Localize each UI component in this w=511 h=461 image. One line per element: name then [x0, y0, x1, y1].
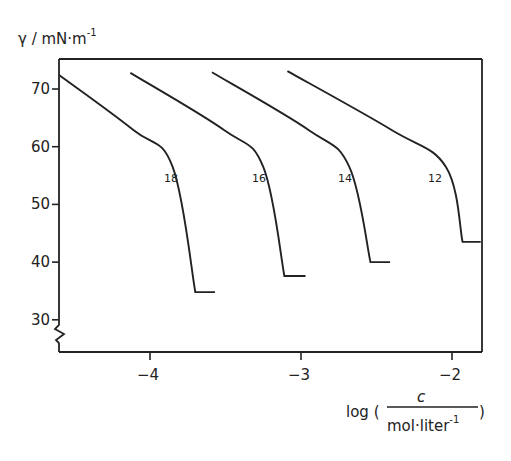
curve-label-12: 12	[428, 172, 442, 185]
plot-frame	[55, 59, 482, 352]
y-tick-label: 30	[31, 311, 50, 329]
curve-14	[212, 72, 390, 262]
curve-12	[287, 71, 480, 242]
curve-16	[130, 73, 305, 276]
y-axis-with-break	[55, 59, 64, 352]
y-tick-label: 40	[31, 253, 50, 271]
y-axis-title: γ / mN·m-1	[18, 27, 97, 48]
surface-tension-chart: 3040506070 −4−3−2 18161412 γ / mN·m-1 lo…	[0, 0, 511, 461]
y-tick-label: 70	[31, 80, 50, 98]
x-tick-label: −3	[288, 366, 310, 384]
x-axis-title: log ( c mol·liter-1 )	[346, 388, 485, 435]
svg-text:log (: log (	[346, 403, 380, 421]
curve-label-18: 18	[164, 172, 178, 185]
svg-text:): )	[479, 403, 485, 421]
y-tick-label: 50	[31, 195, 50, 213]
y-axis-ticks: 3040506070	[31, 80, 59, 329]
x-axis-ticks: −4−3−2	[137, 352, 461, 384]
curve-label-14: 14	[338, 172, 352, 185]
x-tick-label: −2	[439, 366, 461, 384]
x-tick-label: −4	[137, 366, 159, 384]
curve-18	[59, 75, 215, 292]
svg-text:c: c	[417, 388, 426, 406]
curve-label-16: 16	[252, 172, 266, 185]
curves: 18161412	[59, 71, 480, 292]
y-tick-label: 60	[31, 138, 50, 156]
svg-text:mol·liter-1: mol·liter-1	[387, 414, 459, 435]
